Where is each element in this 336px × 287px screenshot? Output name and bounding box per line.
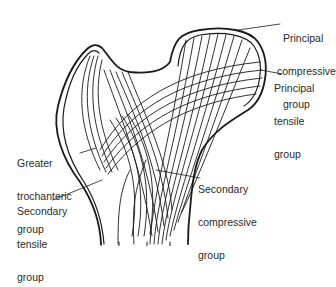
label-line: Principal [283, 33, 336, 44]
label-line: group [274, 149, 314, 160]
label-line: group [17, 272, 67, 283]
greater-trochanteric-lines [82, 56, 118, 172]
label-line: Secondary [17, 206, 67, 217]
label-line: tensile [274, 116, 314, 127]
label-line: Principal [274, 83, 314, 94]
label-line: group [198, 250, 257, 261]
label-line: tensile [17, 239, 67, 250]
label-secondary-tensile: Secondary tensile group [17, 184, 67, 287]
secondary-tensile-lines [104, 70, 172, 236]
bottom-tick-marks [101, 242, 170, 246]
label-line: compressive [198, 217, 257, 228]
label-line: Greater [17, 158, 72, 169]
label-principal-tensile: Principal tensile group [274, 61, 314, 182]
label-secondary-compressive: Secondary compressive group [198, 162, 257, 283]
label-line: Secondary [198, 184, 257, 195]
